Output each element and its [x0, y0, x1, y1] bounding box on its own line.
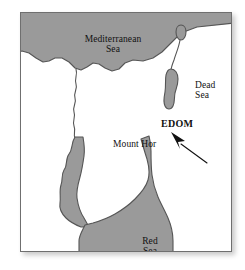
map-figure: Mediterranean Sea Dead Sea EDOM Mount Ho… [0, 0, 245, 270]
label-edom: EDOM [161, 119, 221, 129]
label-dead-sea: Dead Sea [195, 81, 232, 100]
label-mount-hor: Mount Hor [113, 140, 189, 150]
label-mediterranean-sea: Mediterranean Sea [63, 35, 163, 54]
label-red-sea: Red Sea [126, 237, 174, 252]
sea-of-galilee-shape [176, 25, 186, 40]
map-frame: Mediterranean Sea Dead Sea EDOM Mount Ho… [20, 12, 232, 252]
